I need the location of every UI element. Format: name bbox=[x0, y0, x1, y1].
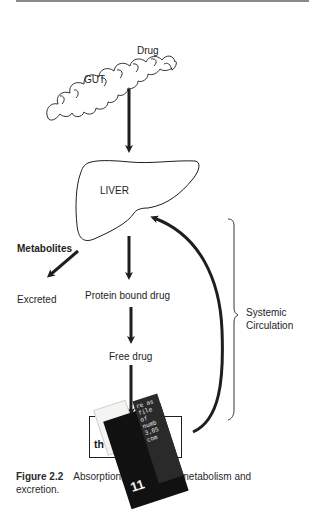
gut-label: GUT bbox=[84, 74, 105, 86]
free-drug-label: Free drug bbox=[109, 351, 152, 363]
systemic-label-line2: Circulation bbox=[246, 320, 293, 332]
excreted-label: Excreted bbox=[17, 294, 56, 306]
gut-icon bbox=[47, 56, 177, 120]
metabolites-label: Metabolites bbox=[17, 243, 72, 255]
liver-label: LIVER bbox=[100, 185, 129, 197]
arrow-target-to-liver bbox=[154, 218, 222, 432]
systemic-label-line1: Systemic bbox=[246, 307, 287, 319]
liver-icon bbox=[76, 161, 199, 241]
protein-bound-label: Protein bound drug bbox=[85, 290, 170, 302]
systemic-brace bbox=[228, 219, 238, 420]
figure-number: Figure 2.2 bbox=[16, 471, 63, 482]
drug-label: Drug bbox=[137, 45, 159, 57]
